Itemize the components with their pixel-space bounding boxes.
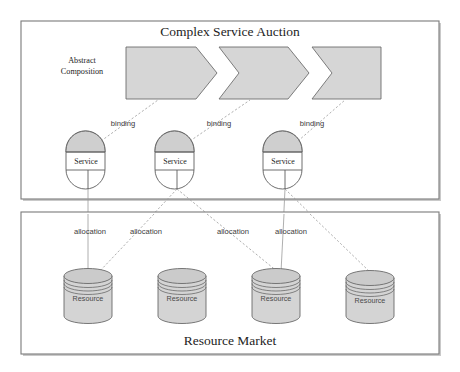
abstract-composition-chevrons — [126, 47, 381, 99]
bottom-panel-title: Resource Market — [184, 333, 277, 348]
resource-2-top — [158, 269, 206, 284]
allocation-label-4: allocation — [275, 227, 307, 236]
resource-1-top — [64, 269, 112, 284]
service-label-2: Service — [163, 157, 187, 166]
binding-label-3: binding — [300, 119, 325, 128]
service-label-1: Service — [74, 157, 98, 166]
abstract-composition-label-line2: Composition — [61, 67, 103, 76]
top-panel-title: Complex Service Auction — [160, 24, 300, 39]
allocation-label-1: allocation — [74, 227, 106, 236]
service-label-3: Service — [271, 157, 295, 166]
resource-3-top — [252, 269, 300, 284]
allocation-label-3: allocation — [217, 227, 249, 236]
resource-label-3: Resource — [261, 294, 292, 303]
resource-4-top — [346, 271, 394, 286]
resource-label-1: Resource — [73, 294, 104, 303]
abstract-composition-label-line1: Abstract — [68, 56, 96, 65]
diagram-canvas: Complex Service Auction Abstract Composi… — [0, 0, 460, 372]
allocation-label-2: allocation — [130, 227, 162, 236]
binding-label-2: binding — [207, 119, 232, 128]
binding-label-1: binding — [111, 119, 136, 128]
resource-label-2: Resource — [167, 294, 198, 303]
resource-label-4: Resource — [355, 296, 386, 305]
